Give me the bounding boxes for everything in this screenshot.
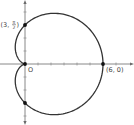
point-3-pi-over-2-label-prefix: (3,: [1, 21, 10, 29]
axes: [0, 0, 134, 125]
origin-label: O: [28, 66, 33, 74]
point-origin: [23, 62, 27, 66]
y-axis-arrow-top: [23, 0, 26, 4]
y-axis-arrow-bottom: [23, 121, 26, 125]
point-6-0-label: (6, 0): [106, 66, 123, 74]
point-3-3pi-over-2: [23, 101, 27, 105]
point-3-pi-over-2-label-suffix: ): [17, 21, 20, 29]
point-6-0: [101, 62, 105, 66]
polar-plot: O (6, 0) (3, π 2 ): [0, 0, 134, 125]
point-3-pi-over-2: [23, 23, 27, 27]
point-3-pi-over-2-label-denominator: 2: [13, 25, 16, 30]
x-axis-arrow: [130, 62, 134, 65]
